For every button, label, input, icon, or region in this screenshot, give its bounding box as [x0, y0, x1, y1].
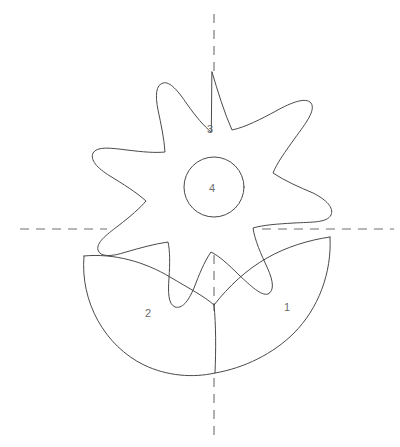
- figure-container: 1 2 3 4: [0, 0, 400, 447]
- region-label-2: 2: [145, 307, 151, 319]
- region-label-3: 3: [207, 123, 213, 135]
- diagram-canvas: 1 2 3 4: [0, 0, 400, 447]
- background-rect: [0, 0, 400, 447]
- region-label-1: 1: [284, 301, 290, 313]
- region-label-4: 4: [209, 182, 215, 194]
